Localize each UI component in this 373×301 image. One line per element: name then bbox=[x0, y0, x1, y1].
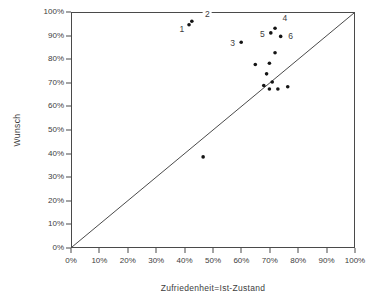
point-number-label-5: 5 bbox=[258, 30, 267, 39]
x-tick-mark-10% bbox=[99, 248, 100, 253]
point-number-label-6: 6 bbox=[286, 32, 295, 41]
x-tick-mark-40% bbox=[184, 248, 185, 253]
y-tick-label-70%: 70% bbox=[48, 79, 64, 87]
x-tick-mark-20% bbox=[127, 248, 128, 253]
y-tick-label-30%: 30% bbox=[48, 173, 64, 181]
data-point-u11 bbox=[262, 84, 266, 88]
y-tick-label-100%: 100% bbox=[44, 8, 64, 16]
y-tick-label-60%: 60% bbox=[48, 102, 64, 110]
data-point-u14 bbox=[276, 87, 280, 91]
diagonal-line bbox=[72, 13, 354, 247]
y-tick-label-20%: 20% bbox=[48, 197, 64, 205]
data-point-u9 bbox=[265, 72, 269, 76]
data-point-u7 bbox=[254, 63, 258, 67]
y-tick-label-10%: 10% bbox=[48, 220, 64, 228]
x-tick-label-20%: 20% bbox=[120, 257, 136, 265]
x-tick-mark-0% bbox=[71, 248, 72, 253]
plot-area: 123456 bbox=[71, 12, 355, 248]
x-tick-label-30%: 30% bbox=[148, 257, 164, 265]
x-tick-mark-50% bbox=[213, 248, 214, 253]
data-point-u6 bbox=[273, 51, 277, 55]
y-axis-tick-labels: 0%10%20%30%40%50%60%70%80%90%100% bbox=[0, 12, 64, 248]
data-point-1 bbox=[187, 23, 191, 27]
data-point-2 bbox=[190, 19, 194, 23]
x-tick-label-90%: 90% bbox=[319, 257, 335, 265]
data-point-u12 bbox=[286, 85, 290, 89]
y-tick-label-90%: 90% bbox=[48, 32, 64, 40]
x-axis-tick-labels: 0%10%20%30%40%50%60%70%80%90%100% bbox=[71, 257, 355, 267]
x-tick-mark-80% bbox=[298, 248, 299, 253]
data-point-u10 bbox=[270, 80, 274, 84]
data-point-u13 bbox=[268, 87, 272, 91]
data-point-5 bbox=[269, 31, 273, 35]
x-tick-label-50%: 50% bbox=[205, 257, 221, 265]
x-tick-mark-70% bbox=[269, 248, 270, 253]
point-number-label-3: 3 bbox=[228, 39, 237, 48]
point-number-label-1: 1 bbox=[178, 25, 187, 34]
x-tick-mark-30% bbox=[156, 248, 157, 253]
y-tick-label-80%: 80% bbox=[48, 55, 64, 63]
x-axis-title: Zufriedenheit=Ist-Zustand bbox=[71, 283, 355, 293]
x-tick-label-70%: 70% bbox=[262, 257, 278, 265]
data-point-u15 bbox=[201, 155, 205, 159]
x-tick-mark-100% bbox=[355, 248, 356, 253]
data-point-u8 bbox=[268, 62, 272, 66]
point-number-label-4: 4 bbox=[281, 13, 290, 22]
y-tick-label-40%: 40% bbox=[48, 150, 64, 158]
data-point-3 bbox=[239, 40, 243, 44]
x-tick-label-80%: 80% bbox=[290, 257, 306, 265]
y-tick-label-50%: 50% bbox=[48, 126, 64, 134]
x-tick-mark-60% bbox=[241, 248, 242, 253]
x-tick-label-100%: 100% bbox=[345, 257, 365, 265]
scatter-canvas bbox=[72, 13, 354, 247]
y-tick-label-0%: 0% bbox=[52, 244, 64, 252]
x-axis-tick-marks bbox=[71, 248, 355, 253]
x-tick-label-0%: 0% bbox=[65, 257, 77, 265]
x-tick-label-40%: 40% bbox=[177, 257, 193, 265]
x-tick-label-60%: 60% bbox=[233, 257, 249, 265]
scatter-chart-page: Wunsch 0%10%20%30%40%50%60%70%80%90%100%… bbox=[0, 0, 373, 301]
point-number-label-2: 2 bbox=[203, 10, 212, 19]
x-tick-mark-90% bbox=[326, 248, 327, 253]
data-point-6 bbox=[279, 35, 283, 39]
data-point-4 bbox=[273, 26, 277, 30]
x-tick-label-10%: 10% bbox=[91, 257, 107, 265]
